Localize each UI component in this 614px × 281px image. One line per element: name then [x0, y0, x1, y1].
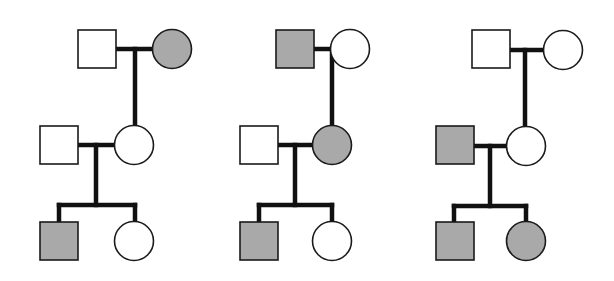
pedigree-canvas — [0, 0, 614, 281]
affected-female-circle — [153, 30, 192, 69]
affected-male-square — [276, 30, 314, 68]
affected-female-circle — [507, 222, 546, 261]
unaffected-male-square — [78, 30, 116, 68]
affected-male-square — [436, 222, 474, 260]
affected-male-square — [240, 222, 278, 260]
unaffected-female-circle — [544, 31, 583, 70]
affected-male-square — [436, 126, 474, 164]
unaffected-female-circle — [115, 222, 154, 261]
pedigree-3 — [436, 30, 583, 261]
unaffected-male-square — [240, 126, 278, 164]
unaffected-female-circle — [507, 127, 546, 166]
affected-male-square — [40, 222, 78, 260]
affected-female-circle — [313, 126, 352, 165]
pedigree-2 — [240, 30, 370, 261]
unaffected-female-circle — [313, 222, 352, 261]
unaffected-female-circle — [115, 126, 154, 165]
pedigree-1 — [40, 30, 192, 261]
unaffected-female-circle — [331, 30, 370, 69]
unaffected-male-square — [472, 30, 510, 68]
unaffected-male-square — [40, 126, 78, 164]
pedigree-diagram — [0, 0, 614, 281]
